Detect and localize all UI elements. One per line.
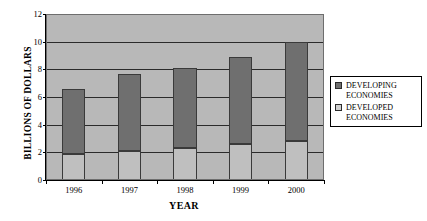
y-tick-mark-10 (43, 42, 46, 43)
bar-segment-developed-1997 (118, 151, 141, 180)
bar-column-2000 (285, 14, 308, 180)
bar-segment-developed-1996 (62, 154, 85, 180)
x-tick-label-1996: 1996 (65, 185, 82, 195)
bar-segment-developed-1998 (173, 148, 196, 180)
legend-label-line1: DEVELOPED (346, 103, 393, 113)
y-tick-label-8: 8 (16, 65, 42, 74)
x-tick-mark-3 (213, 180, 214, 184)
bar-column-1998 (173, 14, 196, 180)
x-tick-label-2000: 2000 (288, 185, 305, 195)
legend-swatch-developing (335, 82, 342, 89)
x-tick-mark-4 (268, 180, 269, 184)
bar-segment-developing-1996 (62, 89, 85, 154)
bar-segment-developing-1998 (173, 68, 196, 148)
bar-column-1999 (229, 14, 252, 180)
y-tick-mark-12 (43, 14, 46, 15)
y-tick-label-4: 4 (16, 120, 42, 129)
x-tick-mark-0 (46, 180, 47, 184)
y-tick-mark-4 (43, 125, 46, 126)
bar-segment-developed-2000 (285, 141, 308, 180)
bar-segment-developing-1999 (229, 57, 252, 144)
bar-segment-developed-1999 (229, 144, 252, 180)
y-tick-label-2: 2 (16, 148, 42, 157)
y-tick-label-10: 10 (16, 37, 42, 46)
y-tick-mark-6 (43, 97, 46, 98)
legend-label-developed: DEVELOPEDECONOMIES (346, 103, 393, 122)
bar-segment-developing-2000 (285, 42, 308, 142)
x-tick-mark-2 (157, 180, 158, 184)
y-tick-mark-2 (43, 152, 46, 153)
legend-item-developing: DEVELOPINGECONOMIES (335, 81, 417, 100)
bar-column-1996 (62, 14, 85, 180)
y-tick-label-0: 0 (16, 176, 42, 185)
x-tick-label-1997: 1997 (121, 185, 138, 195)
legend-label-developing: DEVELOPINGECONOMIES (346, 81, 397, 100)
y-tick-label-6: 6 (16, 93, 42, 102)
legend-label-line2: ECONOMIES (346, 113, 393, 123)
plot-area: 024681012 19961997199819992000 (45, 14, 324, 181)
chart-figure: BILLIONS OF DOLLARS 024681012 1996199719… (0, 0, 427, 221)
legend-swatch-developed (335, 104, 342, 111)
y-tick-label-12: 12 (16, 10, 42, 19)
x-tick-mark-1 (102, 180, 103, 184)
y-tick-mark-8 (43, 69, 46, 70)
x-axis-title: YEAR (45, 200, 323, 211)
x-tick-label-1998: 1998 (177, 185, 194, 195)
bar-segment-developing-1997 (118, 74, 141, 151)
chart-legend: DEVELOPINGECONOMIESDEVELOPEDECONOMIES (330, 76, 422, 127)
legend-label-line1: DEVELOPING (346, 81, 397, 91)
y-axis-title: BILLIONS OF DOLLARS (23, 23, 33, 183)
x-tick-mark-end (324, 180, 325, 184)
legend-label-line2: ECONOMIES (346, 91, 397, 101)
legend-item-developed: DEVELOPEDECONOMIES (335, 103, 417, 122)
bar-column-1997 (118, 14, 141, 180)
x-tick-label-1999: 1999 (232, 185, 249, 195)
